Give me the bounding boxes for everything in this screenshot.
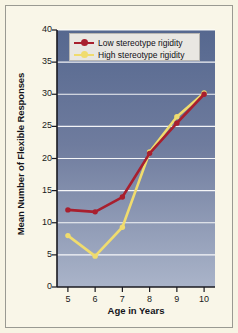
data-point [120,194,125,199]
data-point [147,151,152,156]
x-tick-label: 5 [58,294,78,304]
data-point [65,233,70,238]
legend-item-high-rigidity: High stereotype rigidity [74,48,184,61]
x-tick-label: 7 [112,294,132,304]
y-tick-label: 25 [28,120,52,130]
data-point [92,209,97,214]
y-tick-label: 40 [28,24,52,34]
data-point [65,207,70,212]
y-tick-label: 10 [28,217,52,227]
data-point [174,114,179,119]
data-point [92,253,97,258]
y-tick-label: 15 [28,185,52,195]
legend-label-high-rigidity: High stereotype rigidity [98,50,184,60]
data-point [174,120,179,125]
x-tick-label: 9 [167,294,187,304]
y-tick-label: 20 [28,153,52,163]
data-point [201,92,206,97]
y-tick-label: 30 [28,88,52,98]
figure-container: 0510152025303540 5678910 Mean Number of … [0,0,238,333]
y-tick-label: 35 [28,56,52,66]
x-axis-title-text: Age in Years [57,305,215,316]
legend-swatch-low-rigidity [74,38,94,48]
data-point [120,225,125,230]
line-chart: 0510152025303540 5678910 Mean Number of … [0,0,238,333]
legend-swatch-high-rigidity [74,50,94,60]
y-tick-label: 5 [28,249,52,259]
x-tick-label: 10 [194,294,214,304]
y-axis-title: Mean Number of Flexible Responses [13,54,27,254]
y-axis-title-text: Mean Number of Flexible Responses [15,73,26,235]
chart-legend: Low stereotype rigidity High stereotype … [69,33,200,61]
x-tick-label: 6 [85,294,105,304]
legend-label-low-rigidity: Low stereotype rigidity [98,38,183,48]
x-tick-label: 8 [140,294,160,304]
y-tick-label: 0 [28,281,52,291]
